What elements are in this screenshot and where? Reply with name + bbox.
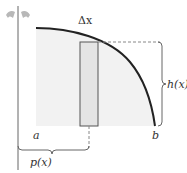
delta-x-label: Δx [78,14,93,27]
radius-label: p(x) [30,156,52,169]
representative-rectangle [80,42,98,126]
height-label: h(x) [167,78,187,91]
diagram-canvas: Δx h(x) p(x) a b [0,0,187,173]
height-brace [158,42,166,126]
radius-brace [18,146,89,154]
upper-bound-label: b [152,129,159,142]
lower-bound-label: a [33,129,40,142]
shell-method-diagram: Δx h(x) p(x) a b [0,0,187,173]
